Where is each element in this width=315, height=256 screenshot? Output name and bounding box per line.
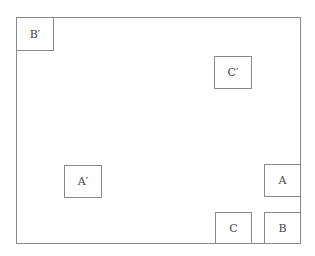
box-label: B: [278, 222, 286, 235]
box-a: A: [264, 164, 301, 197]
box-label: C′: [228, 66, 239, 79]
box-label: A: [279, 174, 287, 187]
box-a-prime: A′: [64, 165, 102, 198]
box-label: C: [229, 222, 237, 235]
box-c: C: [215, 212, 252, 244]
outer-frame: [16, 17, 301, 244]
box-b-prime: B′: [16, 17, 54, 51]
box-c-prime: C′: [214, 56, 252, 89]
box-label: A′: [78, 175, 88, 188]
box-label: B′: [30, 28, 41, 41]
box-b: B: [264, 212, 301, 244]
